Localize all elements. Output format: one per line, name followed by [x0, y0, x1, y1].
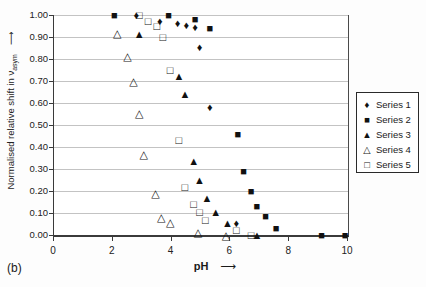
- x-tick-mark: [229, 237, 230, 241]
- legend-item-series-2: ■Series 2: [362, 112, 418, 127]
- gridline: [54, 37, 348, 38]
- gridline: [54, 125, 348, 126]
- legend-label: Series 5: [376, 160, 411, 170]
- y-tick-label: 0.50: [18, 120, 48, 130]
- data-point-filled-square: ■: [206, 23, 213, 34]
- data-point-filled-square: ■: [273, 223, 280, 234]
- filled-square-icon: ■: [362, 115, 372, 125]
- y-tick-mark: [49, 213, 53, 214]
- open-square-icon: □: [362, 160, 372, 170]
- legend-item-series-3: ▲Series 3: [362, 127, 418, 142]
- y-tick-label: 1.00: [18, 10, 48, 20]
- y-tick-mark: [49, 59, 53, 60]
- y-axis-title: Normalised relative shift in νasym⟶: [4, 0, 18, 231]
- x-tick-mark: [171, 237, 172, 241]
- x-tick-mark: [288, 237, 289, 241]
- data-point-filled-square: ■: [165, 10, 172, 21]
- x-axis-title-text: pH: [194, 260, 209, 272]
- data-point-open-square: □: [136, 10, 143, 21]
- data-point-filled-triangle: ▲: [201, 192, 212, 203]
- data-point-open-square: □: [202, 214, 209, 225]
- data-point-filled-diamond: ♦: [207, 102, 213, 113]
- figure-label: (b): [7, 261, 22, 275]
- data-point-open-square: □: [145, 15, 152, 26]
- data-point-open-triangle: △: [157, 212, 165, 223]
- y-tick-label: 0.10: [18, 208, 48, 218]
- gridline: [54, 169, 348, 170]
- open-triangle-icon: △: [362, 145, 372, 155]
- data-point-open-square: □: [176, 135, 183, 146]
- data-point-open-triangle: △: [194, 226, 202, 237]
- y-tick-mark: [49, 81, 53, 82]
- data-point-open-square: □: [159, 32, 166, 43]
- data-point-open-square: □: [248, 230, 255, 241]
- legend-label: Series 2: [376, 115, 411, 125]
- data-point-filled-square: ■: [318, 230, 325, 241]
- data-point-open-triangle: △: [166, 216, 174, 227]
- data-point-filled-square: ■: [254, 201, 261, 212]
- legend-label: Series 3: [376, 130, 411, 140]
- gridline: [54, 59, 348, 60]
- data-point-filled-square: ■: [192, 14, 199, 25]
- y-tick-label: 0.60: [18, 98, 48, 108]
- legend: ♦Series 1■Series 2▲Series 3△Series 4□Ser…: [356, 92, 419, 173]
- y-tick-label: 0.80: [18, 54, 48, 64]
- x-tick-label: 4: [159, 245, 183, 256]
- data-point-open-square: □: [233, 224, 240, 235]
- y-tick-mark: [49, 125, 53, 126]
- x-tick-label: 8: [276, 245, 300, 256]
- legend-item-series-5: □Series 5: [362, 157, 418, 172]
- y-tick-mark: [49, 147, 53, 148]
- data-point-open-triangle: △: [113, 27, 121, 38]
- y-tick-label: 0.30: [18, 164, 48, 174]
- data-point-open-triangle: △: [151, 188, 159, 199]
- legend-label: Series 1: [376, 100, 411, 110]
- figure-panel-b: ♦♦♦♦♦♦♦♦■■■■■■■■■■■■▲▲▲▲▲▲▲▲▲△△△△△△△△△△□…: [0, 0, 426, 287]
- data-point-filled-triangle: ▲: [179, 89, 190, 100]
- y-tick-label: 0.40: [18, 142, 48, 152]
- data-point-open-triangle: △: [135, 107, 143, 118]
- data-point-open-triangle: △: [123, 50, 131, 61]
- data-point-filled-triangle: ▲: [210, 206, 221, 217]
- y-tick-mark: [49, 37, 53, 38]
- data-point-filled-diamond: ♦: [183, 19, 189, 30]
- data-point-filled-diamond: ♦: [197, 41, 203, 52]
- y-tick-mark: [49, 235, 53, 236]
- x-tick-label: 6: [217, 245, 241, 256]
- y-tick-mark: [49, 169, 53, 170]
- data-point-filled-square: ■: [234, 128, 241, 139]
- data-point-filled-square: ■: [262, 211, 269, 222]
- data-point-filled-triangle: ▲: [194, 175, 205, 186]
- x-tick-mark: [347, 237, 348, 241]
- legend-label: Series 4: [376, 145, 411, 155]
- y-tick-mark: [49, 103, 53, 104]
- gridline: [54, 15, 348, 16]
- legend-item-series-1: ♦Series 1: [362, 97, 418, 112]
- data-point-filled-square: ■: [248, 186, 255, 197]
- y-tick-label: 0.00: [18, 230, 48, 240]
- gridline: [54, 147, 348, 148]
- x-tick-mark: [53, 237, 54, 241]
- right-arrow-icon: ⟶: [220, 260, 236, 272]
- y-tick-label: 0.20: [18, 186, 48, 196]
- data-point-open-triangle: △: [139, 148, 147, 159]
- x-tick-mark: [112, 237, 113, 241]
- y-tick-mark: [49, 191, 53, 192]
- data-point-filled-triangle: ▲: [134, 28, 145, 39]
- data-point-filled-triangle: ▲: [222, 217, 233, 228]
- up-arrow-icon: ⟶: [5, 32, 16, 45]
- data-point-filled-square: ■: [111, 10, 118, 21]
- x-tick-label: 0: [41, 245, 65, 256]
- y-tick-mark: [49, 15, 53, 16]
- data-point-open-square: □: [182, 181, 189, 192]
- data-point-filled-triangle: ▲: [188, 156, 199, 167]
- data-point-filled-square: ■: [240, 166, 247, 177]
- y-tick-label: 0.90: [18, 32, 48, 42]
- data-point-filled-triangle: ▲: [173, 70, 184, 81]
- gridline: [54, 103, 348, 104]
- data-point-open-triangle: △: [129, 76, 137, 87]
- x-tick-label: 2: [100, 245, 124, 256]
- data-point-filled-diamond: ♦: [175, 17, 181, 28]
- x-axis-title: pH⟶: [150, 260, 280, 273]
- filled-triangle-icon: ▲: [362, 130, 372, 140]
